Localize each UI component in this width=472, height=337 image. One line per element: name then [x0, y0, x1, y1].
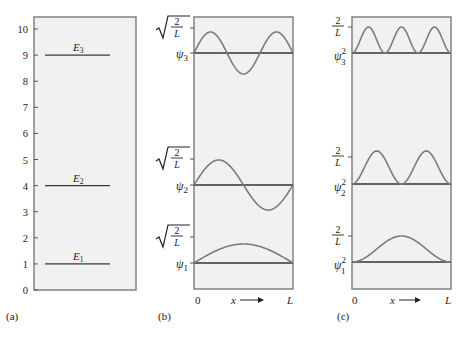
axis-tick-label: 9: [23, 50, 28, 61]
function-label: ψ22: [334, 177, 346, 198]
axis-tick-label: 8: [23, 76, 28, 87]
panel-c-x-end: L: [444, 294, 451, 306]
panel-b-box: [194, 17, 293, 289]
svg-text:2: 2: [175, 225, 180, 236]
function-label: ψ21: [334, 255, 346, 276]
amplitude-label: 2L: [156, 16, 190, 39]
function-label: ψ3: [176, 47, 188, 63]
panel-c-probability-densities: 2Lψ212Lψ222Lψ23 0 x L (c): [332, 15, 451, 323]
axis-tick-label: 1: [23, 259, 28, 270]
amplitude-label: 2L: [332, 224, 344, 247]
panel-a-caption: (a): [6, 310, 19, 323]
particle-in-box-figure: 012345678910 E1E2E3 (a) 2Lψ12Lψ22Lψ3 0 x…: [0, 0, 472, 337]
axis-tick-label: 6: [23, 128, 28, 139]
svg-text:2: 2: [336, 224, 341, 235]
axis-tick-label: 2: [23, 233, 28, 244]
axis-tick-label: 5: [23, 155, 28, 166]
panel-c-x-start: 0: [352, 294, 358, 306]
amplitude-label: 2L: [156, 147, 190, 170]
function-label: ψ2: [176, 179, 188, 195]
panel-c-caption: (c): [337, 310, 350, 323]
panel-c-arrowhead-icon: [415, 297, 421, 303]
panel-a-energy-levels: 012345678910 E1E2E3 (a): [6, 17, 136, 323]
function-label: ψ1: [176, 257, 188, 273]
svg-text:2: 2: [175, 147, 180, 158]
svg-text:L: L: [173, 159, 180, 170]
axis-tick-label: 4: [23, 181, 29, 192]
panel-b-caption: (b): [158, 310, 171, 323]
svg-text:2: 2: [175, 16, 180, 27]
panel-a-box: [34, 17, 136, 290]
svg-text:L: L: [334, 236, 341, 247]
function-label: ψ23: [334, 46, 346, 67]
panel-b-arrowhead-icon: [258, 297, 264, 303]
axis-tick-label: 3: [23, 207, 28, 218]
axis-tick-label: 10: [18, 24, 29, 35]
svg-text:2: 2: [336, 145, 341, 156]
svg-text:L: L: [334, 157, 341, 168]
amplitude-label: 2L: [332, 145, 344, 168]
svg-text:L: L: [173, 28, 180, 39]
axis-tick-label: 0: [23, 285, 28, 296]
amplitude-label: 2L: [332, 15, 344, 38]
panel-b-x-end: L: [286, 294, 293, 306]
axis-tick-label: 7: [23, 102, 28, 113]
svg-text:2: 2: [336, 15, 341, 26]
panel-b-x-start: 0: [195, 294, 201, 306]
panel-b-x-axis-label: x: [230, 294, 236, 306]
panel-b-wavefunctions: 2Lψ12Lψ22Lψ3 0 x L (b): [156, 16, 293, 323]
amplitude-label: 2L: [156, 225, 190, 248]
panel-c-box: [352, 17, 451, 289]
svg-text:L: L: [173, 237, 180, 248]
panel-c-x-axis-label: x: [389, 294, 395, 306]
svg-text:L: L: [334, 27, 341, 38]
